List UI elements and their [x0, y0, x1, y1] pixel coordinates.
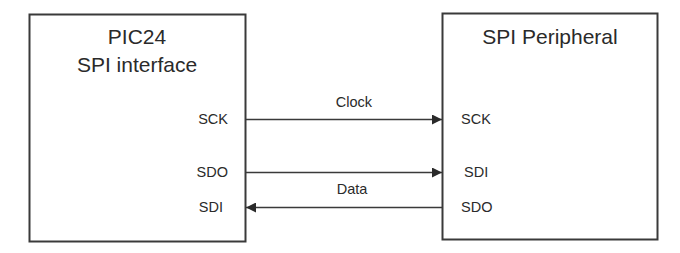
pic24-pin-sdi: SDI	[199, 199, 223, 215]
peripheral-block: SPI Peripheral SCK SDI SDO	[443, 14, 658, 240]
pic24-block: PIC24 SPI interface SCK SDO SDI	[30, 15, 246, 242]
spi-diagram: PIC24 SPI interface SCK SDO SDI SPI Peri…	[0, 0, 680, 253]
peripheral-pin-sck: SCK	[461, 111, 491, 127]
peripheral-pin-sdi: SDI	[464, 164, 488, 180]
peripheral-pin-sdo: SDO	[461, 199, 492, 215]
connections: Clock Data	[246, 94, 442, 208]
pic24-pin-sck: SCK	[198, 111, 228, 127]
pic24-title-line2: SPI interface	[77, 53, 197, 76]
pic24-title-line1: PIC24	[108, 25, 167, 48]
pic24-pin-sdo: SDO	[197, 164, 228, 180]
data-label: Data	[337, 181, 369, 197]
clock-label: Clock	[336, 94, 373, 110]
peripheral-title: SPI Peripheral	[482, 25, 617, 48]
